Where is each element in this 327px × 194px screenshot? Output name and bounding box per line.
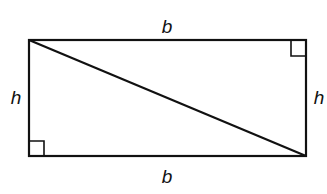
label-left-h: h	[11, 87, 22, 108]
rectangle-diagram: b b h h	[0, 0, 327, 194]
right-angle-marker-bottom-left	[29, 141, 44, 156]
label-right-h: h	[314, 87, 325, 108]
diagonal-line	[29, 40, 306, 156]
right-angle-marker-top-right	[291, 40, 306, 56]
label-top-b: b	[162, 16, 173, 37]
label-bottom-b: b	[162, 166, 173, 187]
